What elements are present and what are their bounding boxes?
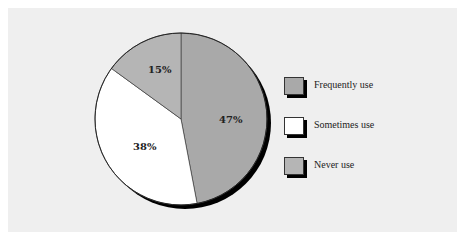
legend-label: Frequently use bbox=[314, 79, 373, 90]
legend-swatch-frequently-use bbox=[284, 77, 304, 95]
label-sometimes-use: 38% bbox=[133, 141, 157, 152]
legend-label: Never use bbox=[314, 159, 354, 170]
pie-chart: 47% 38% 15% bbox=[0, 0, 469, 239]
legend-swatch-never-use bbox=[284, 157, 304, 175]
label-never-use: 15% bbox=[148, 64, 172, 75]
label-frequently-use: 47% bbox=[219, 114, 243, 125]
legend-swatch-sometimes-use bbox=[284, 117, 304, 135]
legend-label: Sometimes use bbox=[314, 119, 374, 130]
